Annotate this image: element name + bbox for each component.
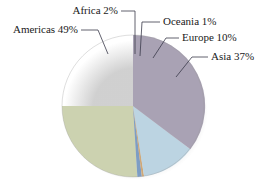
- pie-label-europe: Europe 10%: [182, 31, 237, 43]
- pie-chart-svg: Africa 2% Americas 49% Oceania 1% Europe…: [0, 0, 264, 179]
- pie-chart-figure: Africa 2% Americas 49% Oceania 1% Europe…: [0, 0, 264, 179]
- pie-label-oceania: Oceania 1%: [163, 15, 216, 27]
- pie-label-asia: Asia 37%: [211, 50, 254, 62]
- pie-label-africa: Africa 2%: [72, 4, 118, 16]
- pie-label-americas: Americas 49%: [13, 23, 78, 35]
